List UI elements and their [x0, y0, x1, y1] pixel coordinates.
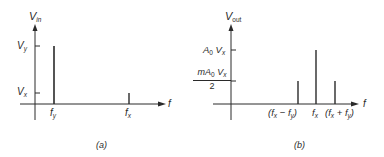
panel-b-y-axis-label: Vout: [225, 11, 241, 24]
tick-symbol: V: [17, 86, 24, 97]
panel-b-x-axis-label: f: [363, 99, 366, 109]
panel-a-tick-label-vy: Vy: [17, 41, 27, 53]
tick-subscript: x: [315, 112, 318, 119]
fraction-numerator: mA0 Vx: [193, 68, 231, 81]
num-symbol: mA: [198, 67, 212, 77]
panel-b-x-arrow-icon: [351, 102, 359, 107]
panel-a-x-arrow-icon: [158, 102, 166, 107]
tick-subscript: y: [24, 45, 27, 52]
tick-mid: − f: [277, 107, 290, 118]
panel-a-y-arrow-icon: [33, 24, 38, 31]
spectrum-diagram-graphics: [0, 0, 384, 157]
tick-symbol: V: [17, 40, 24, 51]
panel-a-x-tick-label-fx: fx: [125, 108, 131, 120]
panel-a-axes: [20, 28, 162, 120]
tick-subscript-2: x: [222, 49, 225, 56]
fraction-denominator: 2: [193, 81, 231, 91]
panel-b-caption: (b): [294, 140, 305, 150]
panel-b-y-arrow-icon: [229, 24, 234, 31]
tick-post: ): [294, 107, 297, 118]
panel-b-tick-label-a0vx: A0 Vx: [203, 45, 225, 57]
panel-a-x-axis-label: f: [168, 99, 171, 109]
panel-a-y-axis-label: Vin: [29, 11, 41, 24]
panel-b-x-tick-label-fx-minus-fy: (fx − fy): [268, 108, 297, 120]
panel-b-tick-label-ma0vx-over-2: mA0 Vx 2: [193, 68, 231, 91]
num-subscript-2: x: [223, 71, 226, 78]
y-axis-subscript: out: [232, 16, 241, 23]
panel-a-tick-label-vx: Vx: [17, 87, 27, 99]
tick-post: ): [351, 107, 354, 118]
tick-subscript: x: [24, 91, 27, 98]
tick-subscript: x: [128, 112, 131, 119]
tick-subscript: y: [53, 112, 56, 119]
y-axis-subscript: in: [36, 16, 41, 23]
num-subscript: 0: [211, 71, 215, 78]
tick-mid: + f: [334, 107, 347, 118]
panel-a-x-tick-label-fy: fy: [50, 108, 56, 120]
panel-a-caption: (a): [96, 140, 107, 150]
panel-b-x-tick-label-fx-plus-fy: (fx + fy): [325, 108, 354, 120]
panel-b-x-tick-label-fx: fx: [312, 108, 318, 120]
tick-subscript: 0: [209, 49, 213, 56]
